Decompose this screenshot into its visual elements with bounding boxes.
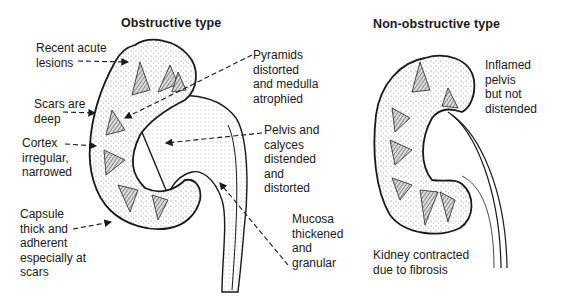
label-mucosa-thickened: Mucosa thickened and granular xyxy=(292,212,343,270)
label-scars-deep: Scars are deep xyxy=(34,97,85,126)
label-recent-acute-lesions: Recent acute lesions xyxy=(36,41,107,70)
label-inflamed-pelvis: Inflamed pelvis but not distended xyxy=(485,58,537,116)
label-cortex-irregular: Cortex irregular, narrowed xyxy=(22,136,72,180)
non-obstructive-type-title: Non-obstructive type xyxy=(373,17,500,31)
obstructive-type-title: Obstructive type xyxy=(121,16,221,30)
obstructive-kidney-illustration xyxy=(90,40,247,292)
label-pyramids-distorted: Pyramids distorted and medulla atrophied xyxy=(253,48,318,106)
label-capsule-thick: Capsule thick and adherent especially at… xyxy=(20,207,86,280)
label-pelvis-calyces: Pelvis and calyces distended and distort… xyxy=(264,123,319,196)
label-kidney-contracted: Kidney contracted due to fibrosis xyxy=(373,248,469,277)
